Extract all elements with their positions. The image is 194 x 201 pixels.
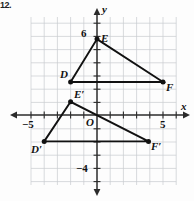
point-label-d: D bbox=[60, 69, 68, 80]
y-tick-label-neg4: −4 bbox=[76, 163, 88, 174]
y-tick-label-6: 6 bbox=[81, 28, 87, 39]
vertex-e bbox=[95, 37, 100, 42]
y-axis-label: y bbox=[102, 4, 107, 15]
origin-label: O bbox=[86, 117, 94, 128]
y-axis-arrow-down bbox=[94, 189, 101, 196]
x-tick-label-neg5: −5 bbox=[22, 119, 34, 130]
x-axis-label: x bbox=[181, 101, 187, 112]
point-label-d-prime: D′ bbox=[31, 144, 42, 155]
point-label-e: E bbox=[101, 33, 108, 44]
y-axis-arrow-up bbox=[94, 8, 101, 15]
triangle-def bbox=[68, 37, 165, 85]
point-label-f: F bbox=[166, 82, 173, 93]
graph-figure: 12. bbox=[0, 0, 194, 201]
vertex-d-prime bbox=[42, 139, 47, 144]
coordinate-plane-svg bbox=[0, 0, 194, 201]
x-axis-arrow-left bbox=[10, 112, 17, 119]
x-tick-label-5: 5 bbox=[160, 119, 166, 130]
x-axis-arrow-right bbox=[183, 112, 190, 119]
vertex-e-prime bbox=[68, 99, 73, 104]
vertex-f bbox=[161, 80, 166, 85]
vertex-d bbox=[68, 80, 73, 85]
point-label-f-prime: F′ bbox=[151, 141, 161, 152]
point-label-e-prime: E′ bbox=[74, 89, 84, 100]
